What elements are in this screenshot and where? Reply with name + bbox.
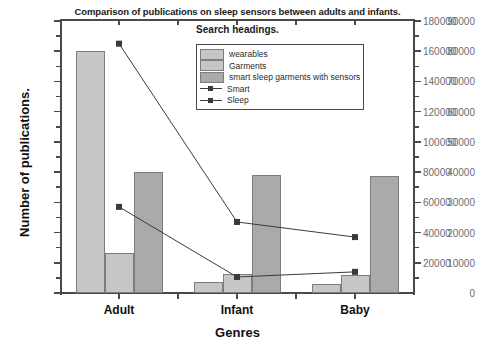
- x-category-label: Baby: [340, 303, 369, 317]
- bar: [223, 274, 252, 293]
- legend-item-smart: Smart: [200, 83, 359, 94]
- legend-label: Garments: [229, 61, 266, 71]
- y-tick-label-right: 40000: [423, 227, 477, 238]
- y-tick-right: [415, 232, 421, 234]
- bar: [370, 176, 399, 293]
- x-category-label: Adult: [104, 303, 135, 317]
- y-tick-right: [415, 20, 421, 22]
- y-tick-label-right: 180000: [423, 16, 477, 27]
- legend-line-marker-icon: [200, 96, 222, 105]
- y-tick-label-right: 100000: [423, 136, 477, 147]
- y-tick-right: [415, 81, 421, 83]
- bar: [312, 284, 341, 293]
- x-category-label: Infant: [221, 303, 254, 317]
- y-tick-right-minor: [415, 217, 419, 219]
- legend-line-marker-icon: [200, 84, 222, 93]
- y-tick-right: [415, 262, 421, 264]
- x-axis-title: Genres: [0, 325, 475, 340]
- y-tick-label-right: 80000: [423, 167, 477, 178]
- y-tick-label-right: 60000: [423, 197, 477, 208]
- legend-item-wearables: wearables: [200, 49, 359, 60]
- y-axis-title: Number of publications.: [17, 53, 32, 273]
- y-tick-right-minor: [415, 186, 419, 188]
- y-tick-right-minor: [415, 35, 419, 37]
- bar: [76, 51, 105, 293]
- bar: [134, 172, 163, 293]
- legend-label: wearables: [229, 49, 268, 59]
- y-tick-right: [415, 171, 421, 173]
- x-tick-boundary: [177, 294, 179, 299]
- legend-swatch-icon: [200, 72, 224, 83]
- chart-title: Comparison of publications on sleep sens…: [60, 6, 415, 17]
- legend-item-sleep: Sleep: [200, 95, 359, 106]
- y-tick-right: [415, 111, 421, 113]
- chart-legend: wearables Garments smart sleep garments …: [196, 44, 364, 110]
- y-tick-right-minor: [415, 277, 419, 279]
- y-tick-right-minor: [415, 66, 419, 68]
- x-tick-boundary: [295, 294, 297, 299]
- x-tick: [354, 294, 356, 299]
- legend-label: Sleep: [227, 95, 249, 105]
- legend-label: Smart: [227, 84, 250, 94]
- y-tick-label-left: 0: [423, 288, 475, 299]
- legend-swatch-icon: [200, 60, 224, 71]
- y-tick-label-right: 160000: [423, 46, 477, 57]
- x-tick: [118, 294, 120, 299]
- bar: [341, 275, 370, 293]
- legend-swatch-icon: [200, 49, 224, 60]
- y-tick-label-right: 20000: [423, 257, 477, 268]
- bar: [194, 282, 223, 293]
- y-tick-right-minor: [415, 156, 419, 158]
- bar: [105, 253, 134, 293]
- y-tick-right: [415, 50, 421, 52]
- bar: [252, 175, 281, 293]
- y-tick-label-right: 120000: [423, 106, 477, 117]
- y-tick-right: [415, 141, 421, 143]
- y-tick-right-minor: [415, 247, 419, 249]
- y-tick-label-right: 140000: [423, 76, 477, 87]
- legend-item-smart-sleep-garments: smart sleep garments with sensors: [200, 72, 359, 83]
- y-tick-right: [415, 202, 421, 204]
- x-tick: [236, 294, 238, 299]
- legend-label: smart sleep garments with sensors: [229, 72, 360, 82]
- legend-item-garments: Garments: [200, 60, 359, 71]
- y-tick-right-minor: [415, 96, 419, 98]
- y-tick-right-minor: [415, 126, 419, 128]
